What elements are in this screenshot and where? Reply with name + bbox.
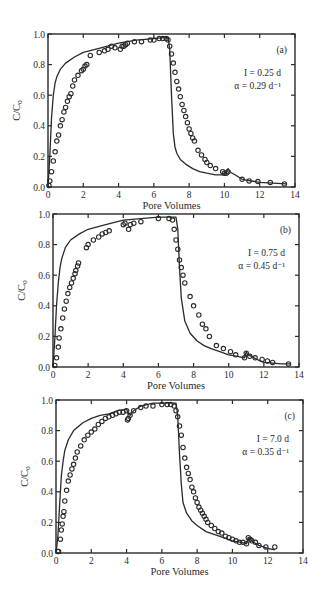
observed-point: [171, 61, 175, 65]
observed-point: [88, 53, 92, 57]
observed-point: [185, 121, 189, 125]
observed-point: [60, 522, 64, 526]
observed-point: [56, 133, 60, 137]
observed-point: [58, 537, 62, 541]
x-tick-label: 10: [220, 190, 230, 200]
x-tick-label: 4: [121, 370, 126, 380]
observed-point: [183, 456, 187, 460]
x-tick-label: 2: [81, 190, 86, 200]
observed-point: [181, 445, 185, 449]
y-tick-label: 0.4: [33, 121, 45, 131]
x-tick-label: 0: [54, 556, 59, 566]
observed-point: [200, 322, 204, 326]
observed-point: [183, 281, 187, 285]
observed-point: [186, 471, 190, 475]
observed-point: [188, 477, 192, 481]
x-tick-label: 14: [294, 370, 304, 380]
observed-point: [91, 238, 95, 242]
observed-point: [66, 479, 70, 483]
figure-canvas: C/Co Pore Volumes (a) I = 0.25 d α = 0.2…: [0, 0, 321, 603]
panel-b: C/Co Pore Volumes (b) I = 0.75 d α = 0.4…: [16, 210, 304, 392]
x-tick-label: 4: [116, 190, 121, 200]
observed-point: [71, 84, 75, 88]
observed-point: [93, 427, 97, 431]
observed-point: [221, 346, 225, 350]
observed-point: [176, 87, 180, 91]
annotation-alpha: α = 0.29 d⁻¹: [234, 81, 281, 91]
observed-point: [213, 166, 217, 170]
plot-frame: [53, 214, 299, 367]
y-tick-label: 0.6: [38, 271, 50, 281]
y-tick-label: 0.6: [33, 91, 45, 101]
x-tick-label: 12: [259, 370, 269, 380]
x-tick-label: 14: [290, 190, 300, 200]
observed-point: [195, 500, 199, 504]
observed-point: [55, 139, 59, 143]
observed-point: [182, 108, 186, 112]
x-tick-label: 8: [187, 190, 192, 200]
observed-point: [59, 327, 63, 331]
y-tick-label: 0.4: [41, 487, 53, 497]
y-tick-label: 1.0: [41, 396, 53, 406]
observed-point: [68, 285, 72, 289]
y-axis-label: C/Co: [16, 280, 29, 301]
x-tick-label: 2: [86, 370, 91, 380]
observed-point: [172, 227, 176, 231]
x-axis-label: Pore Volumes: [150, 566, 208, 577]
y-tick-label: 0.8: [41, 426, 53, 436]
observed-point: [60, 118, 64, 122]
observed-point: [76, 73, 80, 77]
x-tick-label: 10: [224, 370, 234, 380]
observed-point: [56, 345, 60, 349]
observed-point: [57, 336, 61, 340]
annotation-alpha: α = 0.45 d⁻¹: [238, 261, 285, 271]
y-axis-label: C/Co: [19, 466, 32, 487]
observed-point: [193, 496, 197, 500]
annotation-I: I = 7.0 d: [257, 434, 290, 444]
observed-point: [187, 127, 191, 131]
x-tick-label: 6: [151, 190, 156, 200]
model-curve: [48, 37, 286, 187]
observed-point: [178, 95, 182, 99]
observed-point: [79, 444, 83, 448]
figure: C/Co Pore Volumes (a) I = 0.25 d α = 0.2…: [0, 0, 321, 603]
y-tick-label: 0.0: [38, 363, 50, 373]
y-tick-label: 0.4: [38, 301, 50, 311]
observed-point: [196, 148, 200, 152]
x-axis-label: Pore Volumes: [142, 200, 200, 211]
observed-point: [51, 159, 55, 163]
y-tick-label: 0.2: [41, 518, 53, 528]
y-tick-label: 0.8: [33, 60, 45, 70]
model-curve: [53, 217, 290, 367]
observed-point: [63, 499, 67, 503]
observed-point: [71, 276, 75, 280]
observed-point: [183, 114, 187, 118]
observed-point: [68, 473, 72, 477]
observed-point: [204, 327, 208, 331]
observed-point: [69, 281, 73, 285]
observed-point: [58, 124, 62, 128]
observed-point: [173, 70, 177, 74]
x-tick-label: 0: [46, 190, 51, 200]
observed-point: [208, 163, 212, 167]
x-tick-label: 12: [255, 190, 265, 200]
observed-point: [62, 110, 66, 114]
y-tick-label: 0.0: [41, 549, 53, 559]
observed-point: [66, 291, 70, 295]
y-tick-label: 0.6: [41, 457, 53, 467]
observed-point: [184, 465, 188, 469]
observed-point: [273, 545, 277, 549]
annotation-I: I = 0.25 d: [244, 68, 281, 78]
observed-point: [190, 485, 194, 489]
y-axis-label: C/Co: [11, 100, 24, 121]
observed-point: [214, 343, 218, 347]
observed-point: [197, 313, 201, 317]
x-tick-label: 8: [195, 556, 200, 566]
observed-point: [199, 153, 203, 157]
observed-point: [126, 227, 130, 231]
y-tick-label: 0.8: [38, 240, 50, 250]
x-axis-label: Pore Volumes: [147, 380, 205, 391]
x-tick-label: 4: [124, 556, 129, 566]
plot-frame: [56, 400, 303, 553]
x-tick-label: 6: [156, 370, 161, 380]
